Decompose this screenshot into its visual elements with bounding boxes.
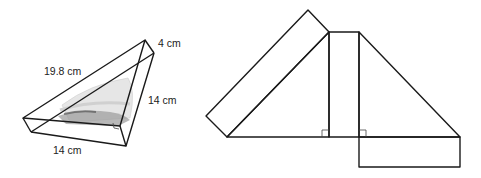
triangular-prism: 4 cm 19.8 cm 14 cm 14 cm	[23, 37, 181, 156]
diagram-canvas: 4 cm 19.8 cm 14 cm 14 cm	[0, 0, 481, 178]
net-triangle-left	[227, 32, 329, 137]
prism-edge-front	[120, 126, 126, 146]
net-rect-middle	[329, 32, 359, 137]
prism-edge-back	[145, 40, 154, 53]
right-angle-marker-left	[322, 130, 329, 137]
label-bottom-leg: 14 cm	[53, 144, 82, 156]
net-rect-bottom	[359, 137, 460, 167]
net-rect-hypotenuse	[206, 10, 329, 137]
prism-edge-left	[23, 118, 31, 132]
net-triangle-right	[359, 32, 460, 137]
label-right-leg: 14 cm	[148, 94, 177, 106]
label-height: 4 cm	[158, 37, 181, 49]
prism-net	[206, 10, 460, 167]
label-hypotenuse: 19.8 cm	[44, 65, 82, 77]
right-angle-marker-right	[359, 130, 366, 137]
